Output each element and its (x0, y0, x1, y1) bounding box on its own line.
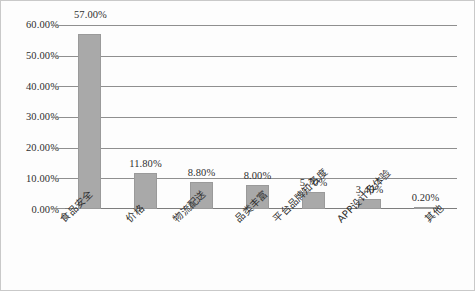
bar-value-label: 8.80% (174, 167, 229, 178)
bar-value-label: 8.00% (230, 170, 285, 181)
bar-value-label: 57.00% (63, 9, 118, 20)
gridline-40 (65, 86, 457, 87)
gridline-30 (65, 117, 457, 118)
plot-area: 57.00% 11.80% 8.80% 8.00% 5.70% 3.40% 0.… (65, 25, 457, 209)
y-tick-label: 0.00% (31, 204, 59, 215)
bar-chart: 60.00% 50.00% 40.00% 30.00% 20.00% 10.00… (0, 0, 475, 291)
bar-value-label: 11.80% (118, 158, 173, 169)
gridline-60 (65, 25, 457, 26)
bar-value-label: 0.20% (398, 192, 453, 203)
bar-food-safety (78, 34, 101, 209)
gridline-20 (65, 148, 457, 149)
gridline-50 (65, 56, 457, 57)
